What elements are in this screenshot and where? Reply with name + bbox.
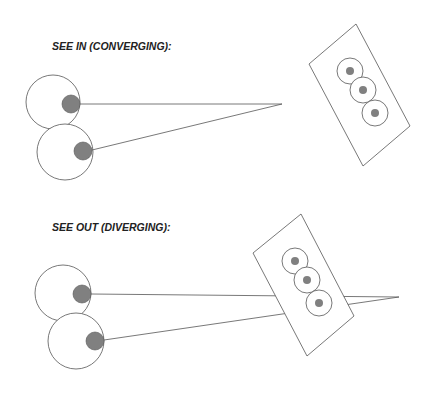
card [253, 214, 354, 356]
stereogram-diagram: SEE IN (CONVERGING): SEE OUT (DIVERGING)… [0, 0, 432, 395]
sight-line-bottom [92, 104, 282, 150]
sight-line-top [91, 294, 399, 297]
card [309, 24, 410, 166]
sight-line-bottom [104, 297, 399, 340]
pupil-bottom [74, 142, 92, 160]
converging-title: SEE IN (CONVERGING): [52, 40, 172, 52]
diverging-section: SEE OUT (DIVERGING): [35, 214, 399, 369]
pupil-top [62, 95, 80, 113]
pupil-top [73, 285, 91, 303]
diverging-title: SEE OUT (DIVERGING): [52, 221, 170, 233]
converging-section: SEE IN (CONVERGING): [26, 24, 410, 180]
pupil-bottom [86, 332, 104, 350]
